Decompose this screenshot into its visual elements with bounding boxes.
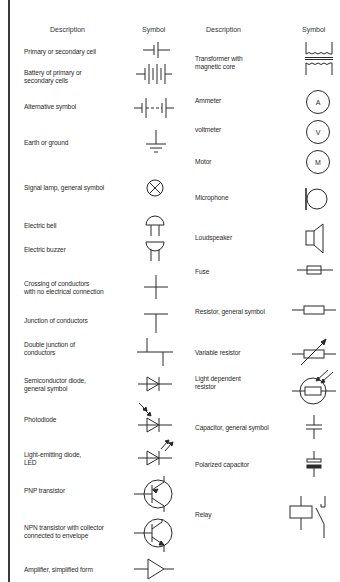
desc-double-junction: Double junction of conductors [24,341,75,357]
right-symbol-header: Symbol [302,26,325,33]
led-icon [138,437,172,467]
crossing-icon [144,275,168,299]
desc-microphone: Microphone [195,194,228,202]
desc-pnp-transistor: PNP transistor [24,487,65,495]
desc-ldr: Light dependent resistor [195,375,241,391]
relay-icon [289,496,329,540]
cell-icon [143,41,173,59]
diode-icon [138,375,172,393]
microphone-icon [304,186,330,212]
desc-variable-resistor: Variable resistor [195,349,240,357]
desc-primary-cell: Primary or secondary cell [24,48,96,56]
desc-earth-ground: Earth or ground [24,139,68,147]
polarized-capacitor-icon [304,451,324,477]
desc-led: Light-emitting diode, LED [24,451,81,467]
battery-icon [136,63,172,85]
left-description-header: Description [50,26,85,33]
right-description-header: Description [206,26,241,33]
desc-polarized-capacitor: Polarized capacitor [195,461,249,469]
motor-icon: M [305,149,331,175]
desc-junction-conductors: Junction of conductors [24,317,88,325]
ammeter-icon: A [305,89,331,115]
fuse-icon [297,264,333,276]
desc-electric-bell: Electric bell [24,222,56,230]
amplifier-icon [134,558,174,580]
left-symbol-header: Symbol [142,26,165,33]
svg-text:A: A [316,99,321,106]
desc-signal-lamp: Signal lamp, general symbol [24,184,104,192]
battery-alt-icon [134,97,174,119]
transformer-icon [305,42,333,76]
desc-crossing-conductors: Crossing of conductors with no electrica… [24,280,104,296]
capacitor-icon [304,415,324,439]
desc-transformer: Transformer with magnetic core [195,55,243,71]
desc-ammeter: Ammeter [195,97,221,105]
desc-fuse: Fuse [195,268,209,276]
desc-amplifier: Amplifier, simplified form [24,566,93,574]
desc-voltmeter: voltmeter [195,126,221,134]
junction-icon [144,311,168,333]
desc-npn-transistor: NPN transistor with collector connected … [24,524,104,540]
bell-icon [145,215,165,237]
npn-transistor-icon [134,514,174,552]
resistor-icon [292,304,336,316]
desc-capacitor: Capacitor, general symbol [195,424,269,432]
desc-photodiode: Photodiode [24,416,56,424]
pnp-transistor-icon [134,476,174,512]
desc-electric-buzzer: Electric buzzer [24,246,66,254]
voltmeter-icon: V [305,119,331,145]
variable-resistor-icon [292,338,336,366]
photodiode-icon [138,402,172,434]
ground-icon [144,130,168,154]
desc-battery: Battery of primary or secondary cells [24,69,82,85]
ldr-icon [292,367,338,407]
desc-relay: Relay [195,511,211,519]
svg-text:V: V [316,129,321,136]
loudspeaker-icon [305,223,327,255]
desc-alternative-symbol: Alternative symbol [24,103,76,111]
desc-resistor: Resistor, general symbol [195,308,265,316]
buzzer-icon [145,240,165,262]
lamp-icon [145,178,165,198]
page-left-border [8,0,10,582]
desc-motor: Motor [195,158,211,166]
double-junction-icon [137,338,173,366]
desc-loudspeaker: Loudspeaker [195,234,232,242]
desc-semiconductor-diode: Semiconductor diode, general symbol [24,377,86,393]
svg-text:M: M [315,159,321,166]
